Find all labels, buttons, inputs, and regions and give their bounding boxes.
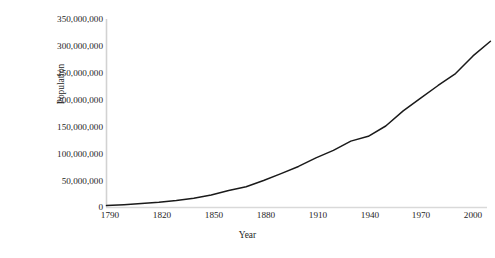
plot-area (0, 0, 495, 258)
population-series-line (107, 41, 491, 205)
population-line-chart: Population 350,000,000 300,000,000 250,0… (0, 0, 495, 258)
